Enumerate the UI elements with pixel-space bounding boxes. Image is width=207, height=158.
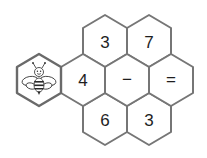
cell-value: 3 [144, 111, 153, 130]
cell-value: 3 [100, 33, 109, 52]
cell-value: 4 [78, 71, 87, 90]
cell-value: 6 [100, 111, 109, 130]
operator-equals: = [166, 70, 176, 89]
operator-minus: − [122, 70, 132, 89]
honeycomb-puzzle: 3 7 6 3 4 − = [0, 0, 207, 158]
hex-cell-bee [17, 54, 61, 106]
cell-value: 7 [144, 33, 153, 52]
